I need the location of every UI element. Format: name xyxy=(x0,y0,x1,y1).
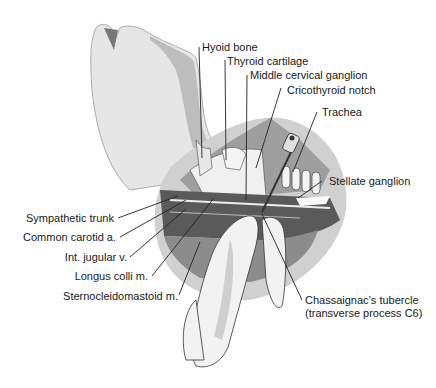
anatomy-illustration xyxy=(0,0,436,388)
label-trachea: Trachea xyxy=(322,106,362,119)
label-sternocleidomastoid: Sternocleidomastoid m. xyxy=(63,290,178,303)
label-hyoid-bone: Hyoid bone xyxy=(202,41,258,54)
label-longus-colli: Longus colli m. xyxy=(75,270,148,283)
label-thyroid-cartilage: Thyroid cartilage xyxy=(227,55,308,68)
label-int-jugular: Int. jugular v. xyxy=(65,251,127,264)
label-stellate-ganglion: Stellate ganglion xyxy=(329,175,410,188)
label-chassaignac-tubercle: Chassaignac’s tubercle xyxy=(305,294,419,307)
label-cricothyroid-notch: Cricothyroid notch xyxy=(287,84,376,97)
label-transverse-process-c6: (transverse process C6) xyxy=(305,307,422,320)
label-common-carotid: Common carotid a. xyxy=(23,231,116,244)
label-sympathetic-trunk: Sympathetic trunk xyxy=(26,212,114,225)
label-middle-cervical-ganglion: Middle cervical ganglion xyxy=(250,69,367,82)
